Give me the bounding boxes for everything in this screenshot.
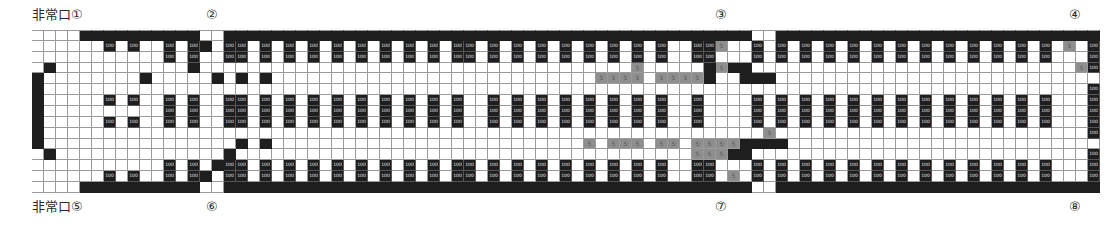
seat-cell[interactable]: 100 — [512, 160, 524, 171]
seat-cell[interactable]: 100 — [920, 160, 932, 171]
seat-cell[interactable]: 100 — [704, 41, 716, 52]
seat-cell[interactable]: 100 — [656, 171, 668, 182]
seat-cell[interactable]: 100 — [428, 117, 440, 128]
seat-cell[interactable]: 100 — [356, 160, 368, 171]
seat-cell[interactable]: 100 — [872, 171, 884, 182]
seat-cell[interactable]: 100 — [800, 41, 812, 52]
seat-cell[interactable]: 100 — [236, 106, 248, 117]
seat-cell[interactable]: 100 — [356, 171, 368, 182]
seat-cell[interactable]: 100 — [452, 95, 464, 106]
seat-cell[interactable]: 100 — [692, 160, 704, 171]
seat-cell[interactable]: 100 — [1040, 117, 1052, 128]
seat-cell[interactable]: 100 — [968, 106, 980, 117]
seat-cell[interactable]: 100 — [692, 41, 704, 52]
seat-cell[interactable]: 100 — [284, 160, 296, 171]
seat-cell[interactable]: 100 — [356, 41, 368, 52]
seat-cell-gray[interactable]: 5 — [632, 139, 644, 150]
seat-cell[interactable]: 100 — [872, 160, 884, 171]
seat-cell[interactable]: 100 — [584, 117, 596, 128]
seat-cell[interactable]: 100 — [332, 106, 344, 117]
seat-cell[interactable]: 100 — [236, 41, 248, 52]
seat-cell[interactable]: 100 — [632, 106, 644, 117]
seat-cell[interactable]: 100 — [968, 160, 980, 171]
seat-cell[interactable]: 100 — [920, 95, 932, 106]
seat-cell[interactable]: 100 — [776, 106, 788, 117]
seat-cell[interactable]: 100 — [920, 52, 932, 63]
seat-cell[interactable]: 100 — [164, 160, 176, 171]
seat-cell[interactable]: 100 — [656, 106, 668, 117]
seat-cell[interactable]: 100 — [872, 41, 884, 52]
seat-cell[interactable]: 100 — [752, 160, 764, 171]
seat-cell[interactable]: 100 — [656, 160, 668, 171]
seat-cell[interactable]: 100 — [692, 52, 704, 63]
seat-cell[interactable]: 100 — [1088, 41, 1100, 52]
seat-cell[interactable]: 100 — [308, 171, 320, 182]
seat-cell[interactable]: 100 — [848, 160, 860, 171]
seat-cell[interactable]: 100 — [992, 106, 1004, 117]
seat-cell[interactable]: 100 — [608, 95, 620, 106]
seat-cell[interactable]: 100 — [608, 106, 620, 117]
seat-cell[interactable]: 100 — [692, 106, 704, 117]
seat-cell[interactable]: 100 — [512, 171, 524, 182]
seat-cell[interactable]: 100 — [1040, 171, 1052, 182]
seat-cell[interactable]: 100 — [800, 95, 812, 106]
seat-cell[interactable]: 100 — [332, 171, 344, 182]
seat-cell[interactable]: 100 — [944, 171, 956, 182]
seat-cell[interactable]: 100 — [464, 160, 476, 171]
seat-cell[interactable]: 100 — [848, 41, 860, 52]
seat-cell[interactable]: 100 — [848, 95, 860, 106]
seat-cell[interactable]: 100 — [284, 52, 296, 63]
seat-cell[interactable]: 100 — [236, 117, 248, 128]
seat-cell[interactable]: 100 — [848, 106, 860, 117]
seat-cell[interactable]: 100 — [464, 171, 476, 182]
seat-cell[interactable]: 100 — [776, 95, 788, 106]
seat-cell[interactable]: 100 — [992, 52, 1004, 63]
seat-cell[interactable]: 100 — [452, 41, 464, 52]
seat-cell[interactable]: 100 — [284, 106, 296, 117]
seat-cell[interactable]: 100 — [404, 52, 416, 63]
seat-cell[interactable]: 100 — [920, 41, 932, 52]
seat-cell[interactable]: 100 — [896, 171, 908, 182]
seat-cell-gray[interactable]: 5 — [1064, 41, 1076, 52]
seat-cell[interactable]: 100 — [464, 41, 476, 52]
seat-cell-gray[interactable]: 5 — [608, 73, 620, 84]
seat-cell-gray[interactable]: 5 — [620, 73, 632, 84]
seat-cell[interactable]: 100 — [380, 106, 392, 117]
seat-cell[interactable]: 100 — [1088, 106, 1100, 117]
seat-cell[interactable]: 100 — [188, 117, 200, 128]
seat-cell[interactable]: 100 — [260, 106, 272, 117]
seat-cell-gray[interactable]: 5 — [704, 149, 716, 160]
seat-cell[interactable]: 100 — [188, 171, 200, 182]
seat-cell[interactable]: 100 — [848, 171, 860, 182]
seat-cell[interactable]: 100 — [224, 41, 236, 52]
seat-cell[interactable]: 100 — [776, 117, 788, 128]
seat-cell[interactable]: 100 — [104, 117, 116, 128]
seat-cell[interactable]: 100 — [968, 41, 980, 52]
seat-cell[interactable]: 100 — [632, 160, 644, 171]
seat-cell[interactable]: 100 — [128, 41, 140, 52]
seat-cell[interactable]: 100 — [704, 160, 716, 171]
seat-cell[interactable]: 100 — [800, 171, 812, 182]
seat-cell[interactable]: 100 — [536, 52, 548, 63]
seat-cell[interactable]: 100 — [632, 52, 644, 63]
seat-cell[interactable]: 100 — [584, 160, 596, 171]
seat-cell[interactable]: 100 — [308, 117, 320, 128]
seat-cell[interactable]: 100 — [128, 117, 140, 128]
seat-cell[interactable]: 100 — [428, 171, 440, 182]
seat-cell[interactable]: 100 — [1088, 160, 1100, 171]
seat-cell[interactable]: 100 — [1040, 95, 1052, 106]
seat-cell[interactable]: 100 — [992, 117, 1004, 128]
seat-cell[interactable]: 100 — [608, 171, 620, 182]
seat-cell[interactable]: 100 — [656, 41, 668, 52]
seat-cell[interactable]: 100 — [164, 117, 176, 128]
seat-cell[interactable]: 100 — [308, 41, 320, 52]
seat-cell[interactable]: 100 — [920, 171, 932, 182]
seat-cell[interactable]: 100 — [872, 52, 884, 63]
seat-cell[interactable]: 100 — [896, 160, 908, 171]
seat-cell[interactable]: 100 — [404, 41, 416, 52]
seat-cell[interactable]: 100 — [188, 41, 200, 52]
seat-cell[interactable]: 100 — [188, 95, 200, 106]
seat-cell[interactable]: 100 — [356, 52, 368, 63]
seat-cell[interactable]: 100 — [1016, 52, 1028, 63]
seat-cell[interactable]: 100 — [488, 41, 500, 52]
